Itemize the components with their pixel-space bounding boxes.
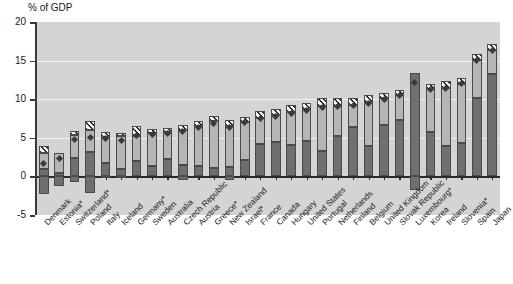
bar-segment-dark <box>410 73 420 176</box>
bar-segment-light <box>426 89 436 132</box>
bar-segment-dark <box>240 160 250 176</box>
bar-segment-dark <box>364 146 374 177</box>
bar-segment-dark <box>286 145 296 177</box>
bar-segment-dark <box>271 142 281 176</box>
bar-segment-negative <box>116 176 126 178</box>
bar-segment-dark <box>317 151 327 176</box>
bar-segment-light <box>317 106 327 151</box>
bar-segment-light <box>472 60 482 99</box>
bar-segment-light <box>194 126 204 165</box>
y-axis-tick <box>30 22 35 24</box>
bar-segment-dark <box>101 163 111 176</box>
bar-segment-negative <box>70 176 80 181</box>
y-axis-tick <box>30 176 35 178</box>
x-axis-tick <box>369 176 370 180</box>
bar-segment-dark <box>426 132 436 176</box>
bar-segment-light <box>302 109 312 141</box>
x-axis-tick <box>214 176 215 180</box>
bar-segment-dark <box>85 152 95 176</box>
bar-segment-dark <box>209 168 219 176</box>
bar-segment-light <box>132 136 142 161</box>
y-axis-tick-label: 0 <box>0 170 26 181</box>
bar-segment-dark <box>70 158 80 177</box>
bar-segment-dark <box>302 141 312 177</box>
bar-segment-light <box>225 126 235 167</box>
bar-segment-dark <box>116 169 126 176</box>
y-axis-tick-label: 5 <box>0 132 26 143</box>
bar-segment-dark <box>132 161 142 176</box>
bar-segment-dark <box>472 98 482 176</box>
bar-segment-light <box>441 88 451 146</box>
x-axis-tick <box>245 176 246 180</box>
x-axis-tick <box>430 176 431 180</box>
bar-segment-dark <box>255 144 265 176</box>
bar-segment-dark <box>379 125 389 176</box>
bar-segment-dark <box>54 173 64 176</box>
bar-segment-light <box>178 130 188 165</box>
x-axis-tick <box>167 176 168 180</box>
bar-segment-dark <box>348 127 358 176</box>
bar-segment-dark <box>395 120 405 176</box>
bar-segment-negative <box>85 176 95 193</box>
x-axis-tick <box>353 176 354 180</box>
bar-segment-dark <box>147 166 157 176</box>
x-axis-tick <box>152 176 153 180</box>
x-axis-tick <box>307 176 308 180</box>
x-axis-tick <box>198 176 199 180</box>
bar-segment-negative <box>178 176 188 180</box>
bar-segment-dark <box>333 136 343 176</box>
gridline <box>36 61 500 62</box>
bar-segment-dark <box>39 169 49 177</box>
bar-segment-dark <box>163 159 173 176</box>
x-axis-tick <box>477 176 478 180</box>
y-axis-tick <box>30 99 35 101</box>
x-axis-tick <box>137 176 138 180</box>
x-axis-tick <box>338 176 339 180</box>
x-axis-tick <box>322 176 323 180</box>
y-axis-tick <box>30 61 35 63</box>
chart-container: % of GDP -505101520 DenmarkEstonia*Switz… <box>0 0 513 284</box>
bar-segment-dark <box>487 74 497 177</box>
bar-segment-light <box>333 106 343 136</box>
bar-segment-negative <box>101 176 111 178</box>
x-axis-tick <box>492 176 493 180</box>
y-axis-tick-label: 15 <box>0 55 26 66</box>
x-axis-tick <box>291 176 292 180</box>
y-axis-tick <box>30 215 35 217</box>
bar-segment-light <box>209 121 219 168</box>
x-axis-tick <box>260 176 261 180</box>
bar-segment-hatched <box>70 131 80 135</box>
bar-segment-negative <box>225 176 235 180</box>
bar-segment-negative <box>54 176 64 186</box>
x-axis-tick <box>384 176 385 180</box>
bar-segment-light <box>364 102 374 146</box>
y-axis-line <box>35 22 37 215</box>
bar-segment-dark <box>457 143 467 176</box>
y-axis-tick-label: 20 <box>0 16 26 27</box>
x-axis-tick <box>461 176 462 180</box>
bar-segment-light <box>457 84 467 143</box>
x-axis-tick <box>399 176 400 180</box>
bar-segment-dark <box>225 167 235 176</box>
bar-segment-light <box>240 122 250 161</box>
bar-segment-negative <box>39 176 49 194</box>
y-axis-tick <box>30 138 35 140</box>
bar-segment-hatched <box>39 146 49 154</box>
y-axis-tick-label: 10 <box>0 93 26 104</box>
x-axis-tick <box>446 176 447 180</box>
bar-segment-dark <box>178 165 188 177</box>
y-axis-title: % of GDP <box>28 2 72 13</box>
bar-segment-hatched <box>85 121 95 130</box>
bar-segment-dark <box>194 166 204 177</box>
bar-segment-dark <box>441 146 451 177</box>
x-axis-tick <box>276 176 277 180</box>
y-axis-tick-label: -5 <box>0 209 26 220</box>
